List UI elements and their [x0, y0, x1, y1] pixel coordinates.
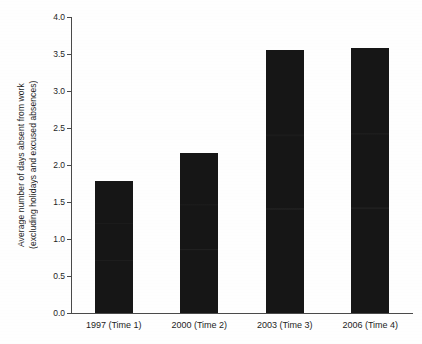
- y-tick-mark: [67, 313, 71, 314]
- y-tick-label: 0.0: [53, 308, 65, 318]
- y-axis-title-line-2: (excluding holidays and excused absences…: [26, 17, 40, 313]
- bar-3: [266, 50, 304, 313]
- y-tick-mark: [67, 17, 71, 18]
- x-axis-line: [71, 313, 413, 314]
- bar-1: [95, 181, 133, 313]
- y-axis-title: Average number of days absent from work …: [14, 17, 42, 313]
- x-axis-label-2: 2000 (Time 2): [153, 320, 245, 330]
- y-tick-mark: [67, 165, 71, 166]
- y-tick-label: 1.0: [53, 234, 65, 244]
- y-tick-label: 2.0: [53, 160, 65, 170]
- x-axis-label-1: 1997 (Time 1): [68, 320, 160, 330]
- y-tick-label: 4.0: [53, 12, 65, 22]
- y-tick-label: 0.5: [53, 271, 65, 281]
- y-tick-mark: [67, 91, 71, 92]
- x-axis-label-4: 2006 (Time 4): [324, 320, 416, 330]
- y-tick-label: 2.5: [53, 123, 65, 133]
- y-tick-mark: [67, 239, 71, 240]
- bar-2: [180, 153, 218, 313]
- y-tick-mark: [67, 202, 71, 203]
- y-axis-line: [71, 17, 72, 313]
- y-tick-label: 3.5: [53, 49, 65, 59]
- plot-area: 0.00.51.01.52.02.53.03.54.0 1997 (Time 1…: [71, 17, 413, 313]
- y-tick-label: 1.5: [53, 197, 65, 207]
- y-tick-label: 3.0: [53, 86, 65, 96]
- bar-4: [351, 48, 389, 313]
- y-tick-mark: [67, 54, 71, 55]
- y-tick-mark: [67, 276, 71, 277]
- x-axis-label-3: 2003 (Time 3): [239, 320, 331, 330]
- y-tick-mark: [67, 128, 71, 129]
- bar-chart: Average number of days absent from work …: [0, 0, 422, 344]
